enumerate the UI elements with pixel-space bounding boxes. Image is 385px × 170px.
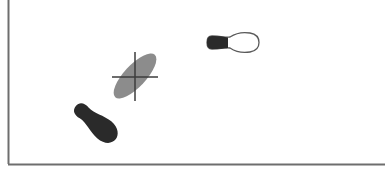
footprint-filled-shape <box>69 98 123 148</box>
footprint-outline <box>207 33 259 53</box>
diagram-frame <box>8 0 385 165</box>
footprint-filled <box>69 98 123 148</box>
footprint-diagram <box>0 0 385 170</box>
footprint-heel-fill <box>207 36 228 49</box>
pressure-ellipse-group <box>107 47 163 104</box>
